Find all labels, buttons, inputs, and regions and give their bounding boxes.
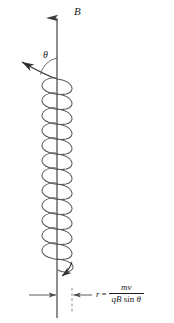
figure-canvas <box>0 0 174 323</box>
radius-variable: r <box>96 289 100 299</box>
magnetic-field-label: B <box>74 6 81 17</box>
denominator-symbols: qB <box>112 294 122 304</box>
velocity-vector <box>22 62 57 79</box>
radius-formula: r = mv qB sin θ <box>96 283 144 305</box>
physics-figure: B θ r = mv qB sin θ <box>0 0 174 323</box>
equals-sign: = <box>102 289 107 299</box>
fraction-denominator: qB sin θ <box>109 294 144 304</box>
fraction-numerator: mv <box>118 283 135 293</box>
denominator-sine-function: sin <box>124 294 135 304</box>
denominator-angle: θ <box>137 294 141 304</box>
angle-arc <box>41 58 58 75</box>
radius-fraction: mv qB sin θ <box>109 283 144 305</box>
angle-label: θ <box>43 50 48 60</box>
helix-direction-arrow <box>62 262 72 276</box>
